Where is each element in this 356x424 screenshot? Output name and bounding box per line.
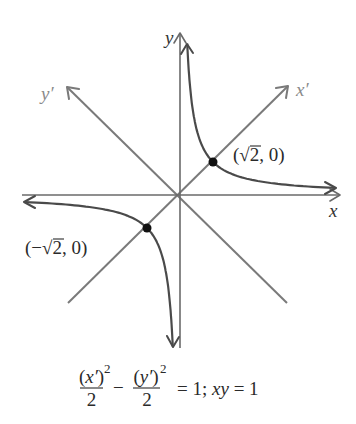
label-rest: , 0): [259, 144, 284, 166]
vertex-label-positive: (√2, 0): [233, 144, 285, 166]
frac1-denominator: 2: [87, 389, 97, 410]
label-radicand: 2: [250, 144, 260, 165]
y-prime-axis-label: y′: [39, 83, 54, 104]
hyperbola-upper-branch: [187, 44, 335, 188]
frac1-exponent: 2: [104, 361, 111, 376]
frac2-denominator: 2: [142, 389, 152, 410]
y-axis-label: y: [163, 27, 174, 48]
label-sign: −: [31, 237, 42, 258]
x-axis-label: x: [328, 200, 338, 221]
hyperbola-figure: y x x′ y′ (√2, 0) (−√2, 0) (x′) 2 2 − (y…: [0, 0, 356, 424]
caption-rest: = 1; xy = 1: [177, 378, 259, 399]
frac2-exponent: 2: [160, 361, 167, 376]
vertex-point-negative: [143, 224, 152, 233]
svg-text:(√2, 0): (√2, 0): [233, 144, 285, 166]
vertex-point-positive: [209, 158, 218, 167]
caption-minus: −: [113, 377, 124, 398]
caption-equation: (x′) 2 2 − (y′) 2 2 = 1; xy = 1: [79, 361, 259, 410]
radical-icon: √: [42, 237, 53, 258]
hyperbola-lower-branch: [25, 202, 173, 346]
radical-icon: √: [239, 144, 250, 165]
label-radicand: 2: [52, 237, 62, 258]
vertex-label-negative: (−√2, 0): [25, 237, 87, 259]
frac1-numerator: (x′): [79, 366, 104, 388]
svg-text:(−√2, 0): (−√2, 0): [25, 237, 87, 259]
label-rest: , 0): [62, 237, 87, 259]
x-prime-axis-label: x′: [295, 79, 309, 100]
frac2-numerator: (y′): [133, 366, 158, 388]
